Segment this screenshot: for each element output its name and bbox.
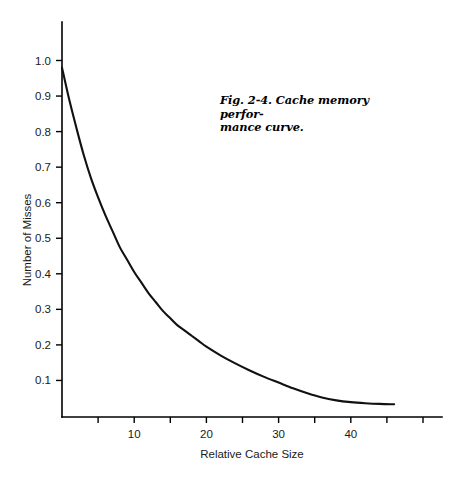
- figure-caption-line1: Fig. 2-4. Cache memory perfor-: [220, 93, 369, 121]
- y-tick-label-1.0: 1.0: [35, 55, 51, 67]
- y-tick-label-0.8: 0.8: [35, 126, 51, 138]
- x-axis-title: Relative Cache Size: [200, 448, 304, 460]
- x-tick-label-30: 30: [272, 428, 285, 440]
- x-axis-ticks: [98, 417, 423, 423]
- y-axis-title: Number of Misses: [21, 193, 33, 286]
- chart-axes: [62, 22, 442, 417]
- x-tick-label-40: 40: [344, 428, 357, 440]
- y-axis-tick-labels: 0.10.20.30.40.50.60.70.80.91.0: [35, 55, 52, 387]
- x-axis-tick-labels: 10203040: [128, 428, 357, 440]
- y-tick-label-0.9: 0.9: [35, 90, 51, 102]
- y-axis-ticks: [56, 61, 62, 381]
- x-tick-label-20: 20: [200, 428, 213, 440]
- y-tick-label-0.3: 0.3: [35, 303, 51, 315]
- figure-caption: Fig. 2-4. Cache memory perfor-mance curv…: [220, 94, 395, 135]
- y-tick-label-0.5: 0.5: [35, 232, 51, 244]
- figure-page: 0.10.20.30.40.50.60.70.80.91.0 10203040 …: [0, 0, 460, 480]
- x-tick-label-10: 10: [128, 428, 141, 440]
- y-tick-label-0.4: 0.4: [35, 268, 52, 280]
- y-tick-label-0.6: 0.6: [35, 197, 51, 209]
- figure-caption-line2: mance curve.: [220, 120, 304, 134]
- y-tick-label-0.1: 0.1: [35, 374, 51, 386]
- y-tick-label-0.2: 0.2: [35, 339, 51, 351]
- y-tick-label-0.7: 0.7: [35, 161, 51, 173]
- cache-performance-chart: 0.10.20.30.40.50.60.70.80.91.0 10203040 …: [0, 0, 460, 480]
